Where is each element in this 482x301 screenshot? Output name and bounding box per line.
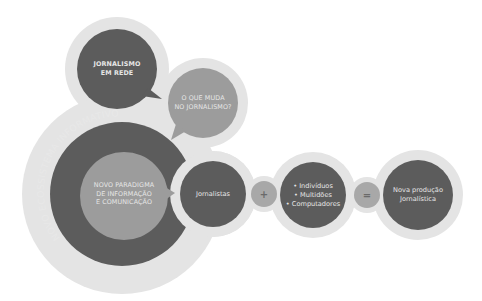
actors-circle: [280, 162, 346, 228]
jornalistas-circle: [180, 161, 246, 227]
equals-circle: [354, 182, 380, 208]
plus-circle: [251, 181, 277, 207]
diagram-canvas: NOVO ECOSSISTEMA INFORMATIVO: [0, 0, 482, 301]
result-circle: [383, 160, 453, 230]
